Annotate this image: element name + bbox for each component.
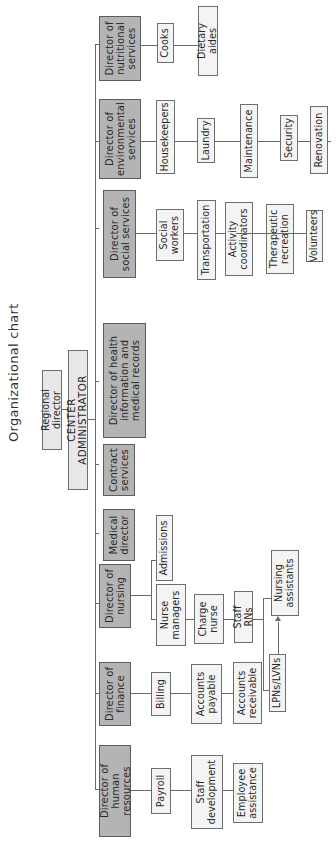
staff-box-housekeepers: Housekeepers (156, 100, 175, 174)
staff-box-employee-assistance: Employee assistance (233, 763, 263, 823)
center-administrator-box: CENTER ADMINISTRATOR (68, 350, 88, 490)
director-social-services: Director of social services (103, 190, 136, 278)
staff-box-maintenance: Maintenance (240, 104, 258, 178)
connector-line (95, 464, 99, 465)
connector-line (95, 228, 99, 229)
contract-services: Contract services (103, 444, 135, 496)
director-environmental-services: Director of environmental services (99, 99, 141, 179)
chart-title: Organizational chart (6, 303, 21, 442)
connector-line (253, 619, 263, 620)
medical-director: Medical director (103, 509, 135, 561)
staff-box-cooks: Cooks (157, 23, 174, 63)
director-nutritional-services: Director of nutritional services (99, 16, 141, 81)
staff-box-nurse-managers: Nurse managers (156, 584, 186, 646)
director-finance: Director of finance (99, 662, 131, 726)
staff-box-nursing-assistants: Nursing assistants (271, 550, 299, 616)
staff-box-transportation: Transportation (197, 200, 216, 280)
staff-box-lpns-lvns: LPNs/LVNs (269, 654, 286, 712)
staff-box-billing: Billing (151, 672, 171, 716)
staff-box-accounts-receivable: Accounts receivable (233, 662, 262, 724)
connector-line (263, 598, 271, 599)
staff-box-staff-development: Staff development (191, 755, 223, 829)
staff-box-renovation: Renovation (310, 106, 328, 174)
connector-line (95, 533, 99, 534)
staff-box-payroll: Payroll (151, 768, 171, 814)
staff-box-admissions: Admissions (156, 515, 173, 581)
connector-line (95, 381, 99, 382)
connector-line (186, 619, 194, 620)
arrow-line (278, 622, 279, 654)
connector-line (88, 419, 95, 420)
staff-box-staff-rns: Staff RNs (234, 591, 253, 643)
org-chart: Organizational chart Regional director C… (0, 0, 336, 846)
regional-director-box: Regional director (42, 370, 62, 450)
staff-box-accounts-payable: Accounts payable (191, 664, 222, 724)
connector-line (151, 561, 152, 596)
connector-line (223, 790, 233, 791)
arrow-head-icon (275, 616, 281, 621)
staff-box-charge-nurse: Charge nurse (194, 594, 224, 644)
connector-line (131, 595, 151, 596)
connector-line (151, 596, 152, 620)
staff-box-volunteers: Volunteers (306, 210, 323, 262)
staff-box-laundry: Laundry (197, 118, 215, 163)
connector-line (136, 233, 236, 234)
director-health-information: Director of health information and medic… (103, 323, 146, 438)
staff-box-security: Security (280, 115, 298, 161)
connector-line (236, 233, 306, 234)
staff-box-dietary-aides: Dietary aides (198, 6, 218, 76)
connector-line (263, 599, 264, 691)
trunk-line (95, 44, 96, 790)
staff-box-activity-coordinators: Activity coordinators (225, 202, 253, 276)
staff-box-social-workers: Social workers (156, 209, 184, 261)
staff-box-therapeutic-recreation: Therapeutic recreation (266, 204, 294, 274)
director-human-resources: Director of human resources (99, 745, 131, 837)
director-nursing: Director of nursing (99, 564, 131, 628)
